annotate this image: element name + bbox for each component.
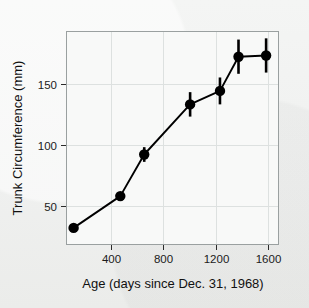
chart-figure: 40080012001600 50100150 Age (days since … bbox=[0, 0, 309, 308]
data-point-marker bbox=[261, 50, 271, 60]
y-tick-labels: 50100150 bbox=[38, 79, 57, 213]
y-tick-label: 150 bbox=[38, 79, 57, 91]
data-point-marker bbox=[68, 223, 78, 233]
trunk-circumference-scatter-line-chart: 40080012001600 50100150 Age (days since … bbox=[0, 0, 309, 308]
y-axis-title: Trunk Circumference (mm) bbox=[10, 61, 25, 216]
x-tick-marks bbox=[112, 245, 269, 250]
data-point-marker bbox=[139, 149, 149, 159]
data-point-marker bbox=[115, 191, 125, 201]
data-point-marker bbox=[185, 99, 195, 109]
data-point-marker bbox=[215, 86, 225, 96]
x-tick-label: 1600 bbox=[256, 253, 282, 265]
y-tick-marks bbox=[61, 85, 66, 207]
x-tick-label: 400 bbox=[102, 253, 121, 265]
x-axis-title: Age (days since Dec. 31, 1968) bbox=[82, 276, 263, 291]
plot-panel bbox=[66, 31, 279, 245]
x-tick-label: 800 bbox=[154, 253, 173, 265]
x-tick-labels: 40080012001600 bbox=[102, 253, 281, 265]
x-tick-label: 1200 bbox=[204, 253, 230, 265]
y-tick-label: 100 bbox=[38, 140, 57, 152]
data-point-marker bbox=[233, 52, 243, 62]
y-tick-label: 50 bbox=[44, 201, 57, 213]
